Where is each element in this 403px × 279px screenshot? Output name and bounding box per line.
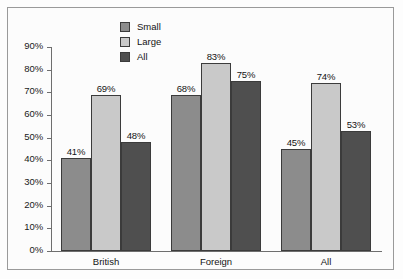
y-axis-tick-label: 40% xyxy=(24,153,43,164)
legend-label-large: Large xyxy=(137,36,161,47)
bar[interactable]: 74% xyxy=(311,83,341,251)
bar-value-label: 48% xyxy=(127,130,146,141)
bar[interactable]: 75% xyxy=(231,81,261,251)
bar-value-label: 83% xyxy=(207,51,226,62)
bar[interactable]: 69% xyxy=(91,95,121,251)
chart-frame: Small Large All 0%10%20%30%40%50%60%70%8… xyxy=(7,7,394,270)
bar-value-label: 74% xyxy=(317,71,336,82)
bar-value-label: 69% xyxy=(97,83,116,94)
x-axis-category-label: British xyxy=(51,256,161,267)
bar[interactable]: 45% xyxy=(281,149,311,251)
y-axis-tick-label: 70% xyxy=(24,85,43,96)
plot-area: 41%69%48%68%83%75%45%74%53% xyxy=(51,47,381,251)
y-axis-tick-label: 20% xyxy=(24,199,43,210)
y-axis-tick-label: 0% xyxy=(29,244,43,255)
y-axis-tick-label: 30% xyxy=(24,176,43,187)
bar-value-label: 45% xyxy=(287,137,306,148)
y-axis-tick-label: 50% xyxy=(24,131,43,142)
y-axis-tick-label: 90% xyxy=(24,40,43,51)
bar-group: 45%74%53% xyxy=(281,47,371,251)
legend-label-small: Small xyxy=(137,21,161,32)
bar[interactable]: 48% xyxy=(121,142,151,251)
bar-value-label: 53% xyxy=(347,119,366,130)
bar-value-label: 75% xyxy=(237,69,256,80)
chart-figure: Small Large All 0%10%20%30%40%50%60%70%8… xyxy=(0,0,403,279)
bar-value-label: 41% xyxy=(67,146,86,157)
y-axis-tick-label: 10% xyxy=(24,221,43,232)
x-axis-category-label: All xyxy=(271,256,381,267)
y-axis-tick-mark xyxy=(47,251,51,252)
bar-value-label: 68% xyxy=(177,83,196,94)
bar-group: 68%83%75% xyxy=(171,47,261,251)
legend-item-small[interactable]: Small xyxy=(120,20,200,34)
bar-group: 41%69%48% xyxy=(61,47,151,251)
y-axis-tick-label: 60% xyxy=(24,108,43,119)
x-axis-category-label: Foreign xyxy=(161,256,271,267)
legend-swatch-large xyxy=(120,37,130,47)
legend-swatch-small xyxy=(120,22,130,32)
bar[interactable]: 83% xyxy=(201,63,231,251)
bar[interactable]: 41% xyxy=(61,158,91,251)
bar[interactable]: 68% xyxy=(171,95,201,251)
x-axis-line xyxy=(51,251,382,252)
y-axis-tick-label: 80% xyxy=(24,63,43,74)
bar[interactable]: 53% xyxy=(341,131,371,251)
